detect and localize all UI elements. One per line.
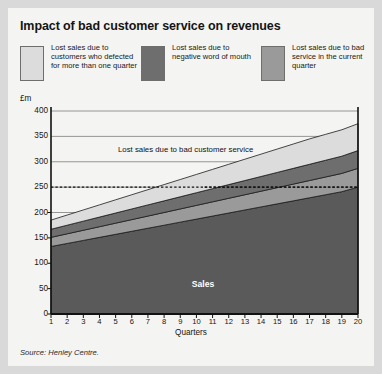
plot-area: 050100150200250300350400 Lost sales due …: [18, 103, 364, 335]
x-tick-label-12: 12: [222, 317, 236, 326]
legend-label-word-of-mouth: Lost sales due to negative word of mouth: [172, 44, 260, 62]
x-tick-label-13: 13: [238, 317, 252, 326]
source-note: Source: Henley Centre.: [20, 348, 99, 357]
x-tick-label-6: 6: [125, 317, 139, 326]
x-tick-label-19: 19: [335, 317, 349, 326]
page-title: Impact of bad customer service on revenu…: [20, 19, 360, 33]
x-tick-label-7: 7: [141, 317, 155, 326]
x-tick-label-1: 1: [44, 317, 58, 326]
x-tick-label-5: 5: [109, 317, 123, 326]
legend-swatch-defected: [20, 46, 44, 81]
legend-label-bad-service: Lost sales due to bad service in the cur…: [292, 44, 380, 71]
legend-swatch-word-of-mouth: [141, 46, 165, 81]
x-tick-label-18: 18: [319, 317, 333, 326]
x-tick-label-11: 11: [206, 317, 220, 326]
chart-legend: Lost sales due to customers who defected…: [18, 44, 366, 92]
legend-swatch-bad-service: [261, 46, 285, 81]
x-tick-label-3: 3: [76, 317, 90, 326]
legend-label-defected: Lost sales due to customers who defected…: [51, 44, 139, 71]
title-divider: [18, 39, 364, 40]
chart-annotation: Lost sales due to bad customer service: [118, 145, 268, 154]
x-axis-title: Quarters: [18, 328, 364, 337]
area-chart-svg: [18, 103, 364, 335]
x-tick-label-8: 8: [157, 317, 171, 326]
x-tick-label-15: 15: [270, 317, 284, 326]
x-tick-label-9: 9: [173, 317, 187, 326]
y-axis-unit-label: £m: [20, 94, 31, 103]
x-tick-label-4: 4: [92, 317, 106, 326]
x-tick-label-10: 10: [189, 317, 203, 326]
x-tick-label-17: 17: [303, 317, 317, 326]
x-tick-label-2: 2: [60, 317, 74, 326]
x-tick-label-14: 14: [254, 317, 268, 326]
x-tick-label-16: 16: [286, 317, 300, 326]
series-label-sales: Sales: [158, 279, 248, 289]
screenshot-root: Impact of bad customer service on revenu…: [0, 0, 382, 374]
x-tick-label-20: 20: [351, 317, 365, 326]
chart-card: Impact of bad customer service on revenu…: [8, 8, 374, 366]
